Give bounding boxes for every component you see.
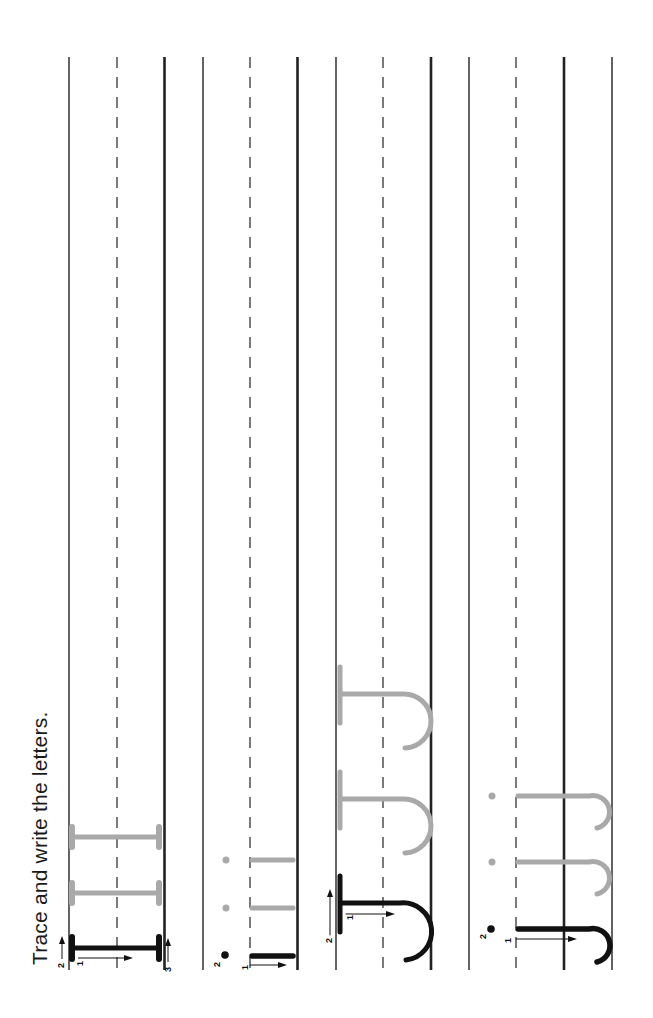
row4-lowercase-j: 1 2 — [478, 793, 610, 963]
model-letter — [72, 937, 159, 959]
stroke-arrow-1 — [516, 936, 577, 942]
row2-lowercase-i: 1 2 — [212, 857, 293, 971]
trace-letter[interactable] — [489, 793, 610, 829]
trace-letter[interactable] — [340, 667, 431, 748]
stroke-number-2: 2 — [324, 938, 334, 943]
stroke-number-2: 2 — [478, 934, 488, 939]
stroke-arrow-3 — [165, 938, 171, 962]
trace-letter[interactable] — [223, 857, 294, 864]
handwriting-sheet: 1 2 3 1 2 — [0, 0, 653, 1018]
trace-letter[interactable] — [489, 859, 610, 895]
stroke-number-1: 1 — [503, 938, 513, 943]
trace-letter[interactable] — [72, 883, 159, 903]
stroke-number-2: 2 — [56, 963, 66, 968]
stroke-number-1: 1 — [345, 915, 355, 920]
row3-uppercase-j: 1 2 — [324, 667, 432, 960]
model-letter — [221, 951, 293, 959]
stroke-number-2: 2 — [212, 962, 222, 967]
stroke-arrow-1 — [250, 962, 287, 968]
writing-lines — [69, 57, 612, 970]
stroke-number-1: 1 — [75, 961, 85, 966]
row1-uppercase-i: 1 2 3 — [56, 827, 173, 972]
trace-letter[interactable] — [223, 905, 294, 912]
stroke-number-1: 1 — [240, 965, 250, 970]
stroke-number-3: 3 — [163, 967, 173, 972]
stroke-arrow-1 — [78, 955, 133, 961]
stroke-arrow-2 — [59, 936, 65, 959]
stroke-arrow-2 — [327, 889, 333, 935]
trace-letter[interactable] — [340, 772, 431, 853]
trace-letter[interactable] — [72, 827, 159, 847]
